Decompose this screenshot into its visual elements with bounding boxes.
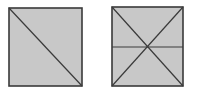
diagram-canvas [0, 0, 198, 98]
square-one-diagonal [9, 8, 82, 86]
square-two-diagonals-midline [112, 7, 183, 86]
